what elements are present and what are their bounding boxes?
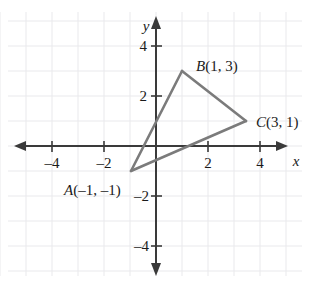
coordinate-plane-svg: –4 –2 2 4 4 2 –2 –4 x y B(1, 3) C(3, 1) … <box>0 0 310 286</box>
x-axis-label: x <box>292 153 300 169</box>
y-tick-label-2: 2 <box>140 88 148 104</box>
axes <box>14 16 288 276</box>
y-tick-label-4: 4 <box>140 38 148 54</box>
y-tick-label--4: –4 <box>133 238 150 254</box>
y-tick-label--2: –2 <box>133 188 149 204</box>
vertex-label-c: C(3, 1) <box>256 114 299 131</box>
vertex-label-a-coords: (–1, –1) <box>73 182 121 199</box>
vertex-label-b: B(1, 3) <box>196 58 238 75</box>
x-tick-label-2: 2 <box>204 155 212 171</box>
x-tick-label-4: 4 <box>256 155 264 171</box>
x-tick-label--2: –2 <box>96 155 112 171</box>
grid-lines <box>0 12 302 276</box>
vertex-label-a: A(–1, –1) <box>63 182 121 199</box>
coordinate-plane-figure: –4 –2 2 4 4 2 –2 –4 x y B(1, 3) C(3, 1) … <box>0 0 310 286</box>
x-axis-arrow-left-icon <box>14 141 26 151</box>
vertex-label-b-coords: (1, 3) <box>205 58 238 75</box>
vertex-label-c-coords: (3, 1) <box>266 114 299 131</box>
vertex-label-b-letter: B <box>196 58 205 74</box>
y-axis-arrow-down-icon <box>151 263 161 276</box>
y-axis-arrow-up-icon <box>151 16 161 29</box>
x-tick-label--4: –4 <box>44 155 61 171</box>
y-axis-label: y <box>141 18 150 34</box>
